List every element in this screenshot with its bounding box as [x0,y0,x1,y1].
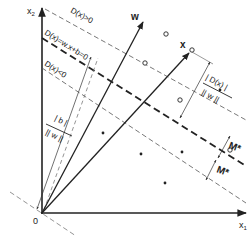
negative-points [102,89,222,185]
origin-label: 0 [33,216,38,226]
bias-denominator: || w || [44,128,65,144]
negative-margin-line [42,68,246,203]
margin-arrow-lower [206,160,216,180]
w-vector-label: w [130,11,139,22]
origin-normal-guide [10,192,76,236]
x-vector-label: x [180,39,186,50]
x2-axis-label: x2 [27,6,36,17]
x1-axis-label: x1 [239,220,248,231]
hyperplane-label: D(x)=w.x+b=0 [43,28,90,62]
positive-region-label: D(x)>0 [69,6,95,26]
margin-label-lower: M* [215,164,230,179]
svm-diagram: x2 x1 0 w x D(x)>0 D(x)=w.x+b=0 D(x)<0 |… [0,0,251,241]
positive-points [143,32,232,152]
